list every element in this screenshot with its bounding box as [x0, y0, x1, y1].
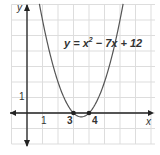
grid [12, 5, 156, 145]
x-tick-1: 1 [41, 115, 47, 126]
equation-label: y = x2 − 7x + 12 [64, 36, 142, 49]
graph-plot [0, 0, 160, 155]
x-axis-label: x [146, 116, 151, 127]
x-tick-4: 4 [92, 115, 98, 126]
y-axis-label: y [17, 2, 22, 13]
parabola-curve [39, 4, 123, 117]
x-tick-3: 3 [67, 115, 73, 126]
y-tick-1: 1 [19, 91, 25, 102]
axes [10, 4, 154, 147]
